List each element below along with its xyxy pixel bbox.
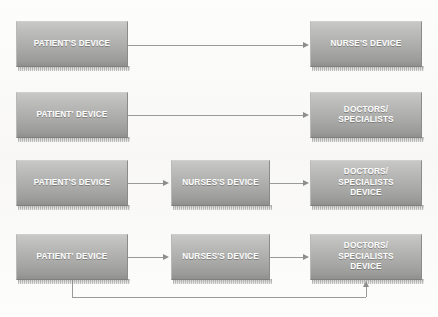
flow-diagram: PATIENT'S DEVICE NURSE'S DEVICE PATIENT'… [0,0,438,317]
connector-r4-arrow2-line [270,257,304,258]
node-r4-doctors-specialists-device[interactable]: DOCTORS/ SPECIALISTS DEVICE [310,234,422,280]
node-label: DOCTORS/ SPECIALISTS DEVICE [334,241,397,273]
node-label: PATIENT' DEVICE [33,252,112,263]
node-r3-doctors-specialists-device[interactable]: DOCTORS/ SPECIALISTS DEVICE [310,160,422,206]
node-label: PATIENT'S DEVICE [30,178,114,189]
connector-r4-feedback-up [366,287,367,297]
connector-r2-arrow-line [128,115,304,116]
connector-r3-arrow2-line [270,183,304,184]
connector-r1-arrowhead [303,42,309,48]
node-r2-patient-device[interactable]: PATIENT' DEVICE [16,92,128,138]
node-label: NURSE'S DEVICE [327,39,406,50]
connector-r2-arrowhead [303,112,309,118]
connector-r4-arrow2-head [303,254,309,260]
node-label: NURSES'S DEVICE [178,252,263,263]
connector-r3-arrow1-line [128,183,164,184]
node-r4-patient-device[interactable]: PATIENT' DEVICE [16,234,128,280]
node-label: DOCTORS/ SPECIALISTS DEVICE [334,167,397,199]
node-r2-doctors-specialists[interactable]: DOCTORS/ SPECIALISTS [310,92,422,138]
node-r4-nurse-device[interactable]: NURSES'S DEVICE [171,234,270,280]
node-label: DOCTORS/ SPECIALISTS [334,105,397,126]
connector-r3-arrow2-head [303,180,309,186]
node-label: NURSES'S DEVICE [178,178,263,189]
node-r3-nurse-device[interactable]: NURSES'S DEVICE [171,160,270,206]
node-label: PATIENT' DEVICE [33,110,112,121]
node-label: PATIENT'S DEVICE [30,39,114,50]
node-r1-nurse-device[interactable]: NURSE'S DEVICE [310,21,422,67]
connector-r4-arrow1-head [163,254,169,260]
connector-r3-arrow1-head [163,180,169,186]
node-r3-patient-device[interactable]: PATIENT'S DEVICE [16,160,128,206]
connector-r1-arrow-line [128,45,304,46]
connector-r4-feedback-across [72,297,366,298]
connector-r4-arrow1-line [128,257,164,258]
node-r1-patient-device[interactable]: PATIENT'S DEVICE [16,21,128,67]
